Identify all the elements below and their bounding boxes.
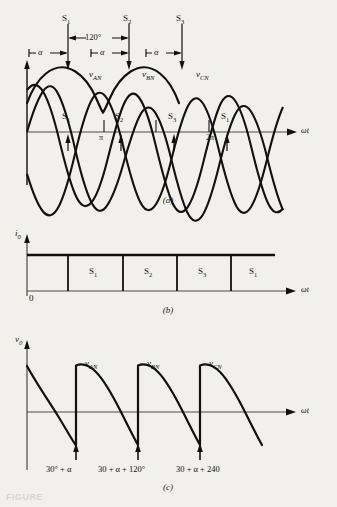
panel-a-x-arrowhead (287, 129, 297, 136)
panel-caption-b: (b) (148, 305, 188, 315)
panel-c-y-arrowhead (24, 340, 30, 349)
segment-label-s3: S3 (198, 266, 206, 278)
waveform-output-voltage (27, 364, 262, 445)
panel-a-y-arrowhead (24, 60, 30, 69)
label-2pi: 2π (206, 133, 214, 142)
axis-arrow-head-4 (224, 134, 229, 143)
segment-label-s1: S1 (89, 266, 97, 278)
label-s1-top: S1 (62, 13, 70, 25)
dimension-alpha-group (29, 47, 182, 59)
axis-label-v0: v0 (15, 334, 22, 346)
segment-label-s2: S2 (144, 266, 152, 278)
firing-arrow-s3 (179, 61, 184, 70)
panel-c-firing-arrows (73, 443, 203, 460)
label-vcn-panel-c: vCN (209, 358, 222, 370)
axis-label-omega-t-c: ωt (301, 406, 309, 415)
panel-b-x-arrowhead (286, 288, 296, 295)
dim-alpha1-arrow (60, 50, 68, 55)
dim-120-arrow-right (121, 35, 129, 40)
panel-b-graphics (24, 234, 296, 296)
figure-three-phase-controlled-rectifier (0, 0, 337, 507)
label-s2-top: S2 (123, 13, 131, 25)
label-alpha-1: α (38, 47, 42, 57)
label-alpha-3: α (154, 47, 158, 57)
label-origin-zero: 0 (29, 293, 34, 303)
axis-label-omega-t-a: ωt (301, 126, 309, 135)
dim-alpha2-arrow (121, 50, 129, 55)
dim-120-arrow-left (68, 35, 76, 40)
panel-c-x-arrowhead (286, 409, 296, 416)
firing-annotation-3: 30 + α + 240 (176, 464, 220, 474)
firing-annotation-1: 30° + α (46, 464, 71, 474)
label-s1-inline-repeat: S1 (221, 111, 229, 123)
label-s3-top: S3 (176, 13, 184, 25)
axis-label-i0: i0 (15, 228, 21, 240)
panel-caption-c: (c) (148, 482, 188, 492)
firing-arrow-s2 (126, 61, 131, 70)
label-van-panel-a: vAN (89, 69, 101, 81)
label-120-degrees: 120° (85, 32, 101, 42)
label-s1-inline: S1 (62, 111, 70, 123)
dim-alpha3-arrow (174, 50, 182, 55)
label-vcn-panel-a: vCN (196, 69, 209, 81)
axis-arrow-head-2 (118, 134, 123, 143)
caption-strip: FIGURE (0, 494, 337, 507)
firing-arrow-head-3 (197, 443, 203, 452)
label-alpha-2: α (100, 47, 104, 57)
panel-a-firing-markers (65, 24, 184, 70)
figure-caption-partial: FIGURE (6, 494, 43, 502)
label-vbn-panel-c: vBN (147, 358, 159, 370)
label-vbn-panel-a: vBN (142, 69, 154, 81)
waveform-phase-c (27, 85, 283, 212)
label-pi: π (99, 133, 103, 142)
panel-c-graphics (24, 340, 296, 470)
label-s2-inline: S2 (115, 111, 123, 123)
axis-label-omega-t-b: ωt (301, 285, 309, 294)
firing-annotation-2: 30 + α + 120° (98, 464, 145, 474)
segment-label-s1-repeat: S1 (249, 266, 257, 278)
firing-arrow-head-2 (135, 443, 141, 452)
axis-arrow-head-1 (65, 134, 70, 143)
panel-b-y-arrowhead (24, 234, 30, 243)
label-s3-inline: S3 (168, 111, 176, 123)
panel-a-axis-arrows (65, 134, 229, 151)
label-van-panel-c: vAN (85, 358, 97, 370)
panel-caption-a: (a) (148, 195, 188, 205)
